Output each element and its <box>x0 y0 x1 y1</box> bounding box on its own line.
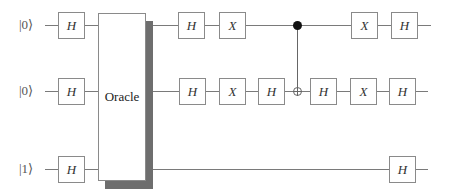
gate-x: X <box>219 78 246 105</box>
qubit-label: |1⟩ <box>19 161 33 177</box>
qubit-label: |0⟩ <box>19 83 33 99</box>
gate-h: H <box>391 12 418 39</box>
cnot-target-icon <box>293 87 302 96</box>
qubit-label: |0⟩ <box>19 17 33 33</box>
gate-x: X <box>350 78 377 105</box>
gate-h: H <box>389 78 416 105</box>
gate-h: H <box>58 156 85 183</box>
gate-h: H <box>58 12 85 39</box>
gate-h: H <box>178 12 205 39</box>
cnot-line <box>297 25 298 91</box>
gate-h: H <box>258 78 285 105</box>
cnot-control-dot <box>293 21 302 30</box>
gate-x: X <box>219 12 246 39</box>
gate-h: H <box>389 156 416 183</box>
oracle-box: Oracle <box>98 13 146 181</box>
gate-h: H <box>310 78 337 105</box>
gate-h: H <box>179 78 206 105</box>
quantum-circuit: |0⟩|0⟩|1⟩OracleHHHHXXHHXHHXHH <box>0 0 455 196</box>
gate-h: H <box>58 78 85 105</box>
gate-x: X <box>351 12 378 39</box>
